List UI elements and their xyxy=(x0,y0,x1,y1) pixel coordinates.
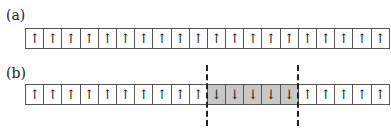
spin-up-cell: ↑ xyxy=(280,28,299,49)
spin-up-cell: ↑ xyxy=(43,84,62,105)
spin-down-cell: ↓ xyxy=(280,84,299,105)
spin-up-cell: ↑ xyxy=(316,28,335,49)
spin-up-cell: ↑ xyxy=(25,28,44,49)
panel-a-spin-row: ↑↑↑↑↑↑↑↑↑↑↑↑↑↑↑↑↑↑↑↑ xyxy=(25,28,390,47)
domain-wall-right-line xyxy=(297,65,299,126)
spin-up-cell: ↑ xyxy=(334,84,353,105)
spin-up-cell: ↑ xyxy=(25,84,44,105)
domain-wall-left-line xyxy=(206,65,208,126)
spin-down-cell: ↓ xyxy=(207,84,226,105)
spin-up-cell: ↑ xyxy=(98,28,117,49)
spin-up-cell: ↑ xyxy=(116,28,135,49)
spin-up-cell: ↑ xyxy=(371,28,390,49)
spin-up-cell: ↑ xyxy=(152,28,171,49)
spin-up-cell: ↑ xyxy=(207,28,226,49)
spin-up-cell: ↑ xyxy=(316,84,335,105)
spin-up-cell: ↑ xyxy=(261,28,280,49)
spin-up-cell: ↑ xyxy=(334,28,353,49)
spin-up-cell: ↑ xyxy=(171,84,190,105)
spin-up-cell: ↑ xyxy=(61,28,80,49)
spin-up-cell: ↑ xyxy=(189,84,208,105)
spin-up-cell: ↑ xyxy=(352,28,371,49)
spin-up-cell: ↑ xyxy=(80,28,99,49)
spin-up-cell: ↑ xyxy=(352,84,371,105)
spin-up-cell: ↑ xyxy=(152,84,171,105)
spin-up-cell: ↑ xyxy=(298,84,317,105)
spin-up-cell: ↑ xyxy=(298,28,317,49)
spin-up-cell: ↑ xyxy=(43,28,62,49)
spin-up-cell: ↑ xyxy=(189,28,208,49)
spin-up-cell: ↑ xyxy=(371,84,390,105)
spin-up-cell: ↑ xyxy=(80,84,99,105)
spin-down-cell: ↓ xyxy=(261,84,280,105)
spin-up-cell: ↑ xyxy=(116,84,135,105)
spin-up-cell: ↑ xyxy=(134,84,153,105)
panel-a-label: (a) xyxy=(6,8,25,22)
panel-b-label: (b) xyxy=(6,66,26,80)
spin-down-cell: ↓ xyxy=(243,84,262,105)
spin-up-cell: ↑ xyxy=(61,84,80,105)
spin-up-cell: ↑ xyxy=(98,84,117,105)
spin-up-cell: ↑ xyxy=(171,28,190,49)
spin-down-cell: ↓ xyxy=(225,84,244,105)
spin-up-cell: ↑ xyxy=(225,28,244,49)
spin-up-cell: ↑ xyxy=(134,28,153,49)
spin-up-cell: ↑ xyxy=(243,28,262,49)
